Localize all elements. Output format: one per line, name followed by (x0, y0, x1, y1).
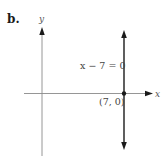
line-x-equals-7 (121, 30, 127, 150)
x-axis-label: x (155, 89, 160, 99)
point-label: (7, 0) (99, 96, 125, 107)
x-axis: x (24, 89, 160, 99)
x-axis-arrow-icon (145, 91, 153, 96)
line-bottom-arrow-icon (121, 142, 127, 150)
equation-label: x − 7 = 0 (80, 60, 125, 71)
part-label: b. (7, 12, 20, 26)
line-top-arrow-icon (121, 30, 127, 38)
y-axis-arrow-icon (39, 27, 44, 35)
vertical-line-graph: b. y x x − 7 = 0 (7, 0) (0, 0, 165, 166)
y-axis: y (38, 14, 45, 156)
y-axis-label: y (38, 14, 45, 24)
